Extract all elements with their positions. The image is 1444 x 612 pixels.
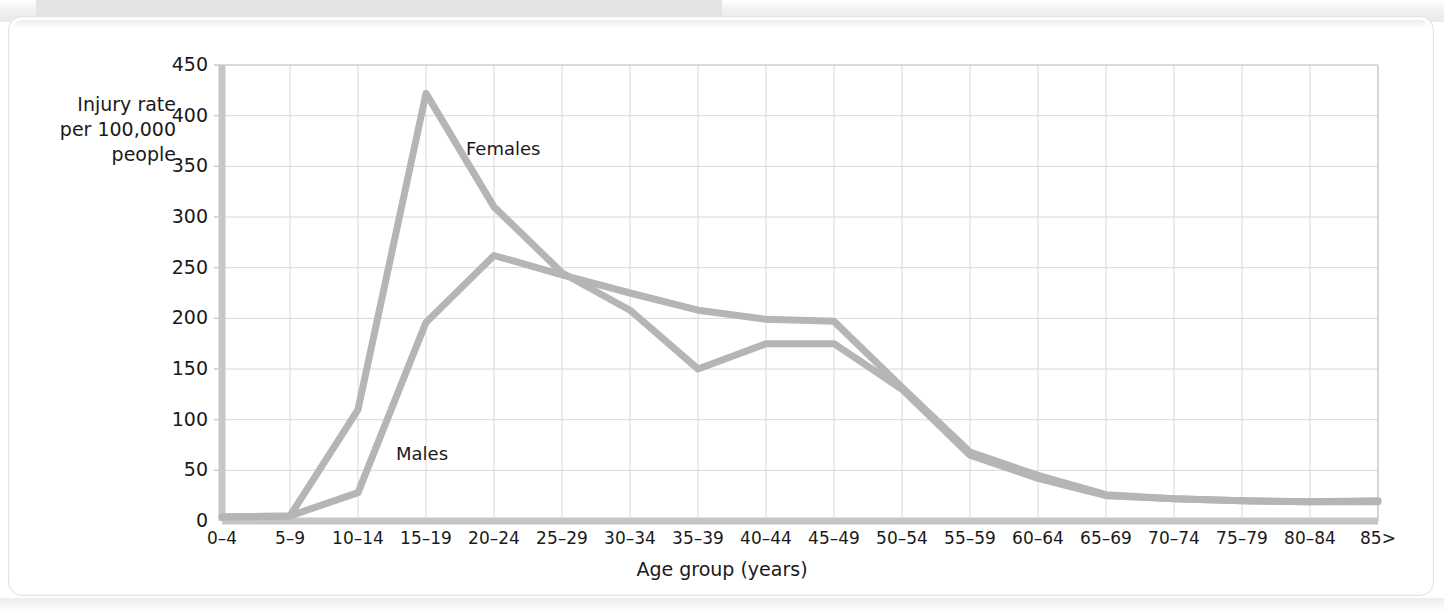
axis-lines bbox=[214, 65, 1378, 521]
series-label-females: Females bbox=[466, 138, 540, 159]
x-tick-label: 15–19 bbox=[400, 528, 452, 548]
x-tick-label: 10–14 bbox=[332, 528, 384, 548]
series-line-males bbox=[222, 256, 1378, 517]
x-tick-label: 25–29 bbox=[536, 528, 588, 548]
plot-svg bbox=[0, 0, 1444, 612]
y-tick-label: 0 bbox=[162, 509, 208, 531]
x-tick-label: 70–74 bbox=[1148, 528, 1200, 548]
x-tick-label: 5–9 bbox=[275, 528, 305, 548]
y-tick-label: 300 bbox=[162, 205, 208, 227]
y-tick-label: 200 bbox=[162, 306, 208, 328]
y-tick-label: 50 bbox=[162, 458, 208, 480]
x-tick-label: 0–4 bbox=[207, 528, 237, 548]
x-tick-label: 80–84 bbox=[1284, 528, 1336, 548]
x-tick-label: 85> bbox=[1360, 528, 1396, 548]
x-axis-title: Age group (years) bbox=[0, 558, 1444, 580]
y-tick-label: 450 bbox=[162, 53, 208, 75]
y-tick-label: 100 bbox=[162, 408, 208, 430]
x-tick-label: 20–24 bbox=[468, 528, 520, 548]
x-tick-label: 65–69 bbox=[1080, 528, 1132, 548]
y-tick-label: 150 bbox=[162, 357, 208, 379]
x-tick-label: 55–59 bbox=[944, 528, 996, 548]
y-tick-label: 250 bbox=[162, 256, 208, 278]
y-tick-label: 400 bbox=[162, 104, 208, 126]
x-tick-label: 30–34 bbox=[604, 528, 656, 548]
line-chart: Injury rate per 100,000 people 050100150… bbox=[0, 0, 1444, 612]
x-tick-label: 45–49 bbox=[808, 528, 860, 548]
y-tick-label: 350 bbox=[162, 154, 208, 176]
x-tick-label: 60–64 bbox=[1012, 528, 1064, 548]
series-label-males: Males bbox=[396, 443, 448, 464]
x-tick-label: 40–44 bbox=[740, 528, 792, 548]
x-tick-label: 75–79 bbox=[1216, 528, 1268, 548]
x-tick-label: 35–39 bbox=[672, 528, 724, 548]
x-tick-label: 50–54 bbox=[876, 528, 928, 548]
